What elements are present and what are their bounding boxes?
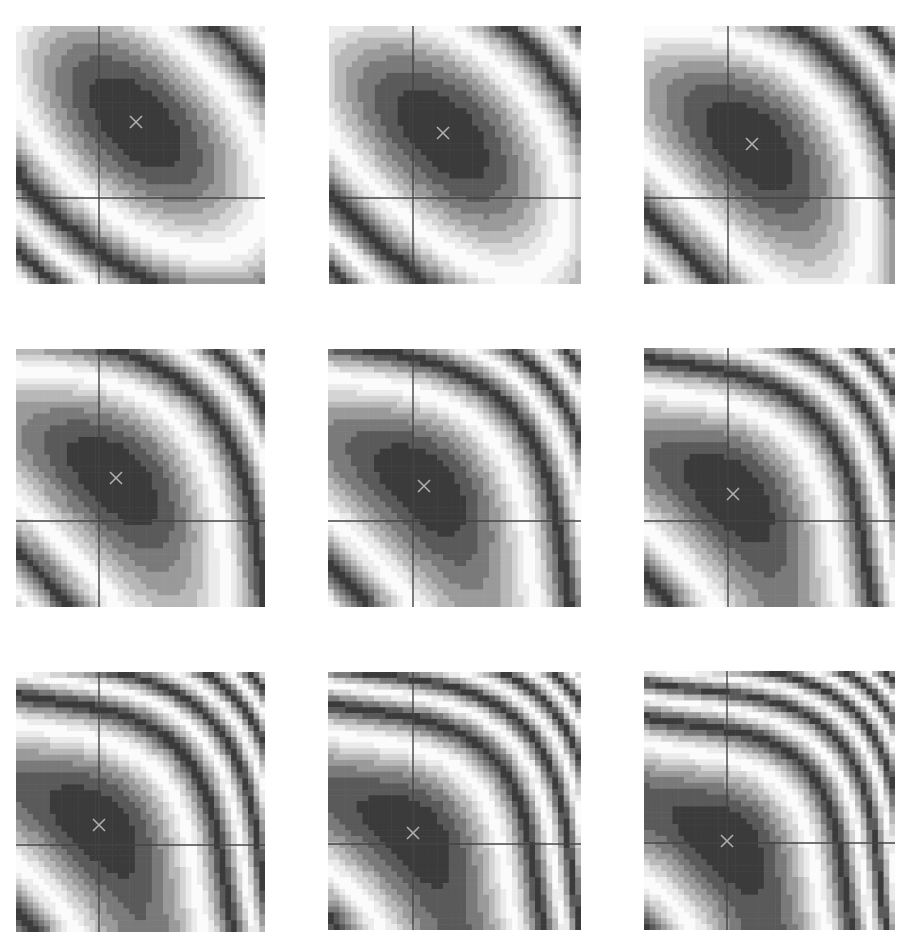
chart-description: 3x3 grid of filled contour plots (8 gray… — [0, 0, 1, 1]
contour-panel-1 — [16, 26, 265, 284]
contour-fill — [644, 348, 895, 607]
contour-panel-8 — [328, 672, 581, 930]
contour-fill — [16, 26, 265, 284]
contour-panel-3 — [644, 26, 895, 284]
contour-panel-6 — [644, 348, 895, 607]
contour-fill — [328, 672, 581, 930]
contour-fill — [328, 349, 581, 607]
contour-panel-9 — [644, 671, 895, 930]
contour-panel-4 — [16, 349, 265, 607]
contour-fill — [16, 349, 265, 607]
contour-fill — [644, 671, 895, 930]
contour-panel-7 — [16, 672, 265, 932]
contour-fill — [16, 672, 265, 932]
contour-panel-2 — [329, 26, 581, 284]
contour-panel-5 — [328, 349, 581, 607]
contour-fill — [329, 26, 581, 284]
contour-fill — [644, 26, 895, 284]
